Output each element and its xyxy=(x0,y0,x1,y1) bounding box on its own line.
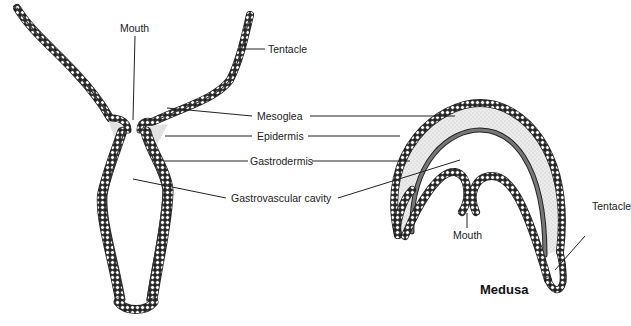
medusa-title: Medusa xyxy=(480,282,528,297)
cnidarian-body-plans-diagram xyxy=(0,0,631,326)
label-medusa-mouth: Mouth xyxy=(453,229,482,241)
leader-polyp-mouth xyxy=(133,36,135,120)
label-polyp-tentacle: Tentacle xyxy=(268,43,307,55)
label-gastrodermis: Gastrodermis xyxy=(250,155,313,167)
leader-lines xyxy=(133,36,585,270)
label-polyp-mouth: Mouth xyxy=(120,22,149,34)
polyp-drawing xyxy=(17,8,250,310)
medusa-drawing xyxy=(394,103,563,290)
leader-gvc-left xyxy=(133,179,226,198)
label-medusa-tentacle: Tentacle xyxy=(592,200,631,212)
label-gastrovascular-cavity: Gastrovascular cavity xyxy=(231,192,331,204)
label-epidermis: Epidermis xyxy=(257,130,304,142)
label-mesoglea: Mesoglea xyxy=(257,110,303,122)
